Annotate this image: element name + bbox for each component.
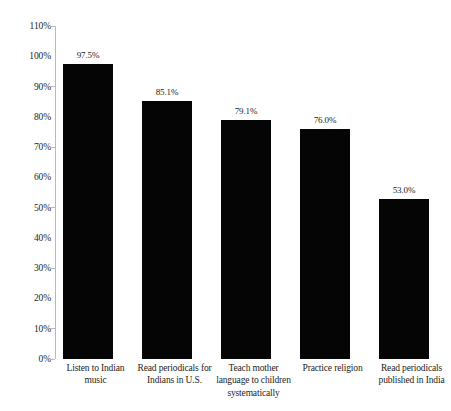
y-axis-tick: 50% <box>0 202 62 214</box>
bar-group: 97.5% <box>56 26 135 359</box>
y-axis-tick-label: 40% <box>34 232 51 244</box>
y-axis-tick-label: 10% <box>34 323 51 335</box>
y-axis-tick-mark <box>50 26 55 27</box>
y-axis-tick-mark <box>50 86 55 87</box>
bar-chart: 110%100%90%80%70%60%50%40%30%20%10%0% 97… <box>0 0 451 411</box>
y-axis-tick-label: 100% <box>29 50 51 62</box>
y-axis-tick-mark <box>50 207 55 208</box>
bar-group: 53.0% <box>372 26 451 359</box>
y-axis-tick-mark <box>50 328 55 329</box>
y-axis-tick: 90% <box>0 81 62 93</box>
y-axis-tick-mark <box>50 359 55 360</box>
y-axis-tick: 40% <box>0 232 62 244</box>
x-axis-category-label: Read periodicalspublished in India <box>365 362 451 387</box>
plot-area: 97.5%85.1%79.1%76.0%53.0% <box>56 26 451 359</box>
x-axis-category-label-line: Read periodicals <box>365 362 451 374</box>
y-axis-tick-label: 30% <box>34 262 51 274</box>
y-axis-tick-label: 90% <box>34 81 51 93</box>
bar-value-label: 53.0% <box>372 185 436 196</box>
bar <box>221 120 271 359</box>
bar-value-label: 79.1% <box>214 106 278 117</box>
x-axis-category-label-line: published in India <box>365 374 451 386</box>
bar-value-label: 85.1% <box>135 87 199 98</box>
y-axis-tick: 80% <box>0 111 62 123</box>
y-axis-tick-label: 110% <box>30 20 51 32</box>
bar-group: 79.1% <box>214 26 293 359</box>
bar <box>379 199 429 359</box>
y-axis-tick: 10% <box>0 323 62 335</box>
bar-value-label: 97.5% <box>56 50 120 61</box>
y-axis-tick-mark <box>50 147 55 148</box>
x-axis-category-labels: Listen to IndianmusicRead periodicals fo… <box>56 362 451 411</box>
y-axis-tick: 70% <box>0 141 62 153</box>
y-axis-tick-label: 20% <box>34 292 51 304</box>
y-axis-tick: 100% <box>0 50 62 62</box>
y-axis-tick: 30% <box>0 262 62 274</box>
y-axis-tick-label: 80% <box>34 111 51 123</box>
bar <box>300 129 350 359</box>
y-axis-tick-label: 50% <box>34 202 51 214</box>
bar-group: 76.0% <box>293 26 372 359</box>
y-axis-tick: 60% <box>0 171 62 183</box>
x-axis-category-label-line: systematically <box>207 387 301 399</box>
y-axis-tick-label: 60% <box>34 171 51 183</box>
y-axis-tick: 20% <box>0 292 62 304</box>
x-axis-category-label-line: language to children <box>207 374 301 386</box>
y-axis-tick-label: 70% <box>34 141 51 153</box>
bar-value-label: 76.0% <box>293 115 357 126</box>
bar <box>63 64 113 359</box>
bar <box>142 101 192 359</box>
y-axis-tick: 110% <box>0 20 62 32</box>
bar-group: 85.1% <box>135 26 214 359</box>
y-axis-tick-mark <box>50 268 55 269</box>
